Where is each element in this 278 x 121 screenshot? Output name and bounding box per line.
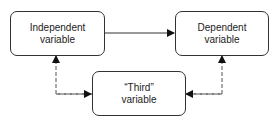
independent-variable-node: Independent variable [10,11,105,56]
node-label-line2: variable [30,34,86,46]
node-label-line2: variable [198,34,247,46]
node-label-line1: “Third” [121,82,156,94]
dashed-arrow-third-to-dependent [186,56,222,94]
node-label-line1: Dependent [198,22,247,34]
dependent-variable-node: Dependent variable [175,11,269,56]
node-label-line2: variable [121,94,156,106]
dashed-arrow-third-to-independent [56,56,92,94]
third-variable-node: “Third” variable [92,71,186,116]
node-label-line1: Independent [30,22,86,34]
